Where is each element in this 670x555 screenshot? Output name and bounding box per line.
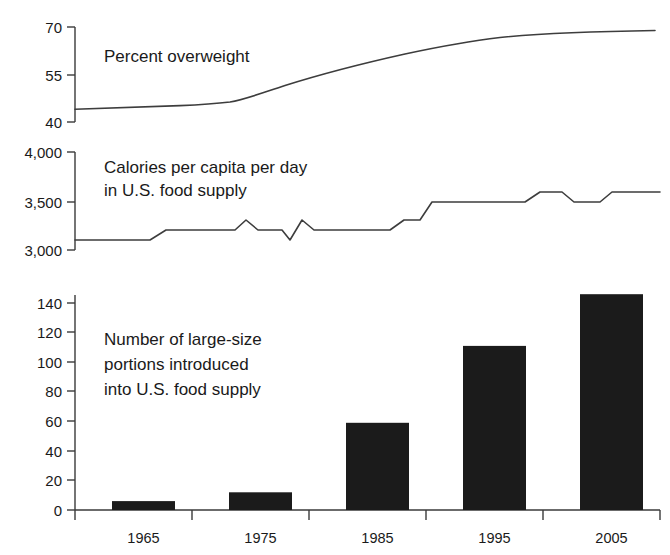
y-tick-label-55: 55 bbox=[45, 67, 62, 84]
y-tick-label-4000: 4,000 bbox=[24, 144, 62, 161]
bar-1985 bbox=[346, 423, 409, 510]
y-tick-label-140: 140 bbox=[37, 295, 62, 312]
series-caption-calories-line2: in U.S. food supply bbox=[104, 181, 247, 200]
y-tick-label-20: 20 bbox=[45, 472, 62, 489]
x-tick-label-1985: 1985 bbox=[361, 530, 393, 546]
y-tick-label-100: 100 bbox=[37, 354, 62, 371]
y-tick-label-3000: 3,000 bbox=[24, 242, 62, 259]
bar-1975 bbox=[229, 492, 292, 510]
y-tick-label-60: 60 bbox=[45, 413, 62, 430]
x-tick-label-1975: 1975 bbox=[244, 530, 276, 546]
bar-1995 bbox=[463, 346, 526, 510]
y-tick-label-70: 70 bbox=[45, 19, 62, 36]
panel-large-size-portions: 140 120 100 80 60 40 20 0 Number of larg… bbox=[0, 265, 670, 555]
percent-overweight-plot: 70 55 40 Percent overweight bbox=[0, 0, 670, 135]
large-size-portions-plot: 140 120 100 80 60 40 20 0 Number of larg… bbox=[0, 265, 670, 555]
percent-overweight-line bbox=[75, 31, 655, 110]
series-caption-portions-line2: portions introduced bbox=[104, 355, 249, 374]
x-tick-label-2005: 2005 bbox=[595, 530, 627, 546]
x-tick-label-1965: 1965 bbox=[127, 530, 159, 546]
series-caption-portions-line1: Number of large-size bbox=[104, 330, 262, 349]
y-tick-label-40: 40 bbox=[45, 114, 62, 131]
bar-1965 bbox=[112, 501, 175, 510]
series-caption-portions-line3: into U.S. food supply bbox=[104, 380, 261, 399]
panel-percent-overweight: 70 55 40 Percent overweight bbox=[0, 0, 670, 135]
y-tick-label-120: 120 bbox=[37, 324, 62, 341]
y-tick-label-80: 80 bbox=[45, 383, 62, 400]
y-tick-label-0: 0 bbox=[54, 502, 62, 519]
x-tick-label-1995: 1995 bbox=[478, 530, 510, 546]
panel-calories-per-capita: 4,000 3,500 3,000 Calories per capita pe… bbox=[0, 135, 670, 265]
y-tick-label-40: 40 bbox=[45, 443, 62, 460]
bar-2005 bbox=[580, 294, 643, 510]
calories-per-capita-plot: 4,000 3,500 3,000 Calories per capita pe… bbox=[0, 135, 670, 265]
series-caption-calories-line1: Calories per capita per day bbox=[104, 158, 308, 177]
series-caption-percent-overweight: Percent overweight bbox=[104, 47, 250, 66]
y-tick-label-3500: 3,500 bbox=[24, 194, 62, 211]
obesity-food-supply-figure: 70 55 40 Percent overweight 4,000 3,500 … bbox=[0, 0, 670, 555]
